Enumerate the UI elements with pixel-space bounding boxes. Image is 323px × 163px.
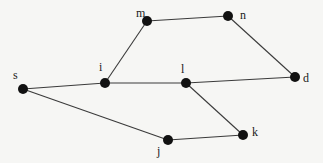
node-l — [181, 78, 191, 88]
node-label-j: j — [156, 144, 160, 158]
edge-j-k — [168, 135, 243, 140]
edge-l-k — [186, 83, 243, 135]
node-n — [223, 11, 233, 21]
edge-n-d — [228, 16, 295, 77]
node-label-s: s — [13, 68, 18, 82]
node-label-l: l — [181, 62, 185, 76]
edge-s-j — [23, 89, 168, 140]
edge-s-i — [23, 83, 105, 89]
graph-diagram: simnldjk — [0, 0, 323, 163]
node-k — [238, 130, 248, 140]
node-label-i: i — [99, 60, 103, 74]
node-label-d: d — [303, 71, 309, 85]
node-d — [290, 72, 300, 82]
node-j — [163, 135, 173, 145]
node-s — [18, 84, 28, 94]
edge-i-m — [105, 21, 147, 83]
labels-layer: simnldjk — [13, 6, 309, 158]
node-label-n: n — [240, 8, 246, 22]
node-label-m: m — [136, 6, 146, 20]
node-label-k: k — [252, 125, 258, 139]
edge-m-n — [147, 16, 228, 21]
node-i — [100, 78, 110, 88]
edges-layer — [23, 16, 295, 140]
edge-l-d — [186, 77, 295, 83]
